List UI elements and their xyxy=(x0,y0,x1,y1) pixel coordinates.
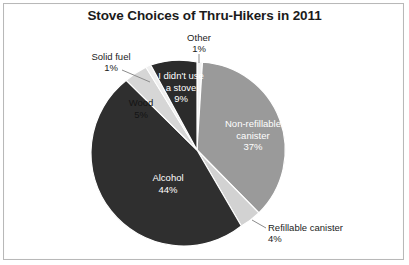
slice-label-wood-name: Wood xyxy=(129,97,154,108)
slice-label-non-refillable-name-line2: canister xyxy=(215,130,291,142)
slice-label-solid-fuel-pct: 1% xyxy=(80,62,142,73)
slice-label-wood: Wood 5% xyxy=(119,97,163,120)
slice-label-refillable-canister-pct: 4% xyxy=(268,233,343,244)
slice-label-refillable-canister-name: Refillable canister xyxy=(268,222,343,233)
slice-label-alcohol-pct: 44% xyxy=(138,184,198,196)
slice-label-non-refillable-pct: 37% xyxy=(215,141,291,153)
slice-label-non-refillable-name-line1: Non-refillable xyxy=(225,118,281,129)
slice-label-no-stove-name-line2: a stove xyxy=(148,82,214,94)
slice-label-refillable-canister: Refillable canister 4% xyxy=(268,222,343,244)
slice-label-other-name: Other xyxy=(187,32,211,43)
slice-label-wood-pct: 5% xyxy=(119,109,163,121)
slice-label-solid-fuel: Solid fuel 1% xyxy=(80,51,142,73)
slice-label-other-pct: 1% xyxy=(172,43,226,54)
leader-line-refillable-canister xyxy=(252,220,266,228)
slice-label-alcohol-name: Alcohol xyxy=(152,172,183,183)
slice-label-alcohol: Alcohol 44% xyxy=(138,172,198,195)
slice-label-other: Other 1% xyxy=(172,32,226,54)
slice-label-non-refillable-canister: Non-refillable canister 37% xyxy=(215,118,291,153)
pie-chart-figure: Stove Choices of Thru-Hikers in 2011 Oth… xyxy=(0,0,409,265)
slice-label-no-stove-name-line1: I didn't use xyxy=(158,70,204,81)
slice-label-solid-fuel-name: Solid fuel xyxy=(91,51,130,62)
